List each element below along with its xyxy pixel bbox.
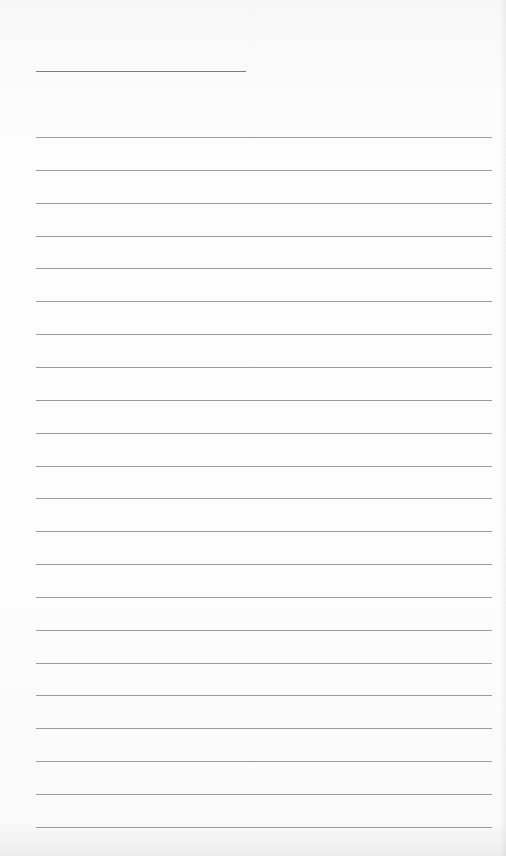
ruled-line [36,433,492,434]
ruled-line [36,268,492,269]
ruled-line [36,663,492,664]
ruled-line [36,466,492,467]
ruled-line [36,630,492,631]
ruled-line [36,531,492,532]
ruled-line [36,203,492,204]
ruled-line [36,597,492,598]
ruled-line [36,236,492,237]
ruled-line [36,170,492,171]
ruled-line [36,728,492,729]
ruled-line [36,794,492,795]
ruled-line [36,137,492,138]
ruled-line [36,498,492,499]
title-line [36,71,246,72]
ruled-line [36,695,492,696]
ruled-line [36,761,492,762]
ruled-line [36,367,492,368]
page-edge-shadow [500,0,506,856]
ruled-line [36,334,492,335]
lined-paper-page [0,0,506,856]
ruled-line [36,301,492,302]
ruled-line [36,827,492,828]
ruled-line [36,564,492,565]
ruled-line [36,400,492,401]
